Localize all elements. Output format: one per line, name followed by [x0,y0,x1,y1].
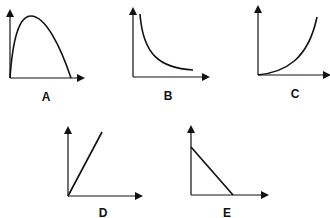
graph-e [191,127,267,195]
graph-b-label: B [164,90,173,102]
graph-d [68,128,141,196]
graph-c [258,7,329,75]
graph-a-label: A [42,91,51,103]
graphs-canvas [0,0,330,218]
graph-c-curve [258,17,317,75]
graph-e-label: E [223,207,231,218]
graph-d-label: D [99,207,108,218]
graph-a [10,11,83,78]
graph-b-curve [140,14,193,70]
graph-c-label: C [291,88,300,100]
graph-b [133,9,208,77]
graph-a-curve [10,16,71,78]
graph-e-line [191,147,233,195]
graph-d-line [68,132,102,196]
